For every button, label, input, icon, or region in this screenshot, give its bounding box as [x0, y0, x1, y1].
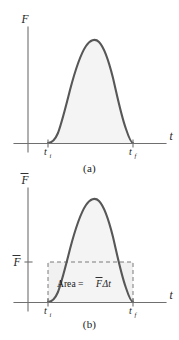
panel-a-svg: F t t i t f	[0, 0, 179, 185]
panel-a-y-axis-label: F	[20, 13, 29, 25]
panel-b-area-annotation-force: F	[95, 278, 102, 289]
panel-b-svg: F t F t i t f Area = F Δt	[0, 160, 179, 340]
panel-a-x-axis-label: t	[169, 130, 173, 142]
panel-a-tick-label-ti: t	[44, 146, 47, 157]
panel-b-tick-label-ti-sub: i	[50, 311, 52, 318]
panel-a-chart: F t t i t f	[0, 0, 179, 185]
panel-b-area-annotation-suffix: Δt	[102, 278, 112, 289]
panel-a-tick-label-tf: t	[129, 146, 132, 157]
panel-b-area-annotation-prefix: Area =	[57, 278, 83, 289]
figure-container: F t t i t f (a)	[0, 0, 179, 340]
panel-b-caption: (b)	[0, 318, 179, 330]
panel-a-tick-label-ti-sub: i	[50, 152, 52, 159]
panel-b-tick-label-ti: t	[44, 305, 47, 316]
panel-b-y-axis-label: F	[20, 174, 29, 186]
panel-a-tick-label-tf-sub: f	[135, 152, 138, 159]
panel-b-chart: F t F t i t f Area = F Δt	[0, 160, 179, 340]
panel-b-x-axis-label: t	[169, 289, 173, 301]
panel-b-tick-label-tf: t	[129, 305, 132, 316]
panel-b-avg-force-label: F	[12, 256, 21, 268]
panel-b-tick-label-tf-sub: f	[135, 311, 138, 318]
